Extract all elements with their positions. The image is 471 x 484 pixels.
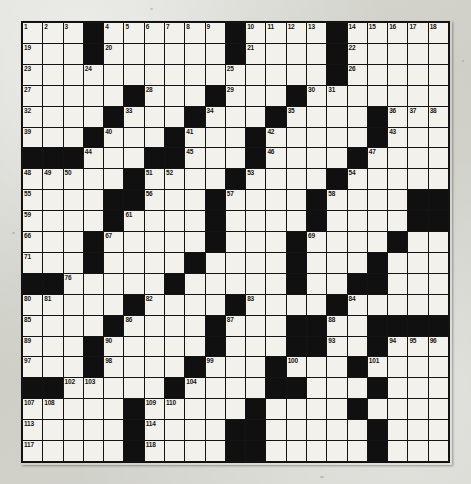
letter-square[interactable]: 104 <box>185 378 204 398</box>
letter-square[interactable] <box>165 65 184 85</box>
letter-square[interactable] <box>185 86 204 106</box>
letter-square[interactable]: 41 <box>185 128 204 148</box>
letter-square[interactable] <box>348 211 367 231</box>
letter-square[interactable] <box>226 378 245 398</box>
letter-square[interactable] <box>307 274 326 294</box>
letter-square[interactable] <box>368 86 387 106</box>
letter-square[interactable] <box>124 378 143 398</box>
letter-square[interactable] <box>185 65 204 85</box>
letter-square[interactable] <box>43 65 62 85</box>
letter-square[interactable] <box>266 253 285 273</box>
letter-square[interactable] <box>388 357 407 377</box>
letter-square[interactable] <box>429 65 448 85</box>
letter-square[interactable] <box>287 420 306 440</box>
letter-square[interactable]: 50 <box>64 169 83 189</box>
letter-square[interactable]: 29 <box>226 86 245 106</box>
letter-square[interactable] <box>165 357 184 377</box>
letter-square[interactable]: 59 <box>23 211 42 231</box>
letter-square[interactable] <box>165 190 184 210</box>
letter-square[interactable] <box>429 357 448 377</box>
letter-square[interactable] <box>84 107 103 127</box>
letter-square[interactable] <box>368 211 387 231</box>
letter-square[interactable] <box>145 232 164 252</box>
letter-square[interactable]: 48 <box>23 169 42 189</box>
letter-square[interactable]: 76 <box>64 274 83 294</box>
letter-square[interactable]: 81 <box>43 295 62 315</box>
letter-square[interactable] <box>246 107 265 127</box>
letter-square[interactable]: 18 <box>429 23 448 43</box>
letter-square[interactable] <box>266 65 285 85</box>
letter-square[interactable] <box>206 128 225 148</box>
letter-square[interactable] <box>64 44 83 64</box>
letter-square[interactable] <box>368 65 387 85</box>
letter-square[interactable]: 99 <box>206 357 225 377</box>
letter-square[interactable] <box>185 44 204 64</box>
letter-square[interactable] <box>145 253 164 273</box>
letter-square[interactable] <box>429 128 448 148</box>
letter-square[interactable] <box>307 295 326 315</box>
letter-square[interactable] <box>368 169 387 189</box>
letter-square[interactable]: 25 <box>226 65 245 85</box>
letter-square[interactable] <box>165 232 184 252</box>
letter-square[interactable] <box>104 420 123 440</box>
letter-square[interactable] <box>124 337 143 357</box>
letter-square[interactable] <box>145 107 164 127</box>
letter-square[interactable]: 43 <box>388 128 407 148</box>
letter-square[interactable]: 89 <box>23 337 42 357</box>
letter-square[interactable] <box>124 357 143 377</box>
letter-square[interactable] <box>388 378 407 398</box>
letter-square[interactable] <box>84 190 103 210</box>
letter-square[interactable] <box>266 169 285 189</box>
letter-square[interactable]: 98 <box>104 357 123 377</box>
letter-square[interactable] <box>226 211 245 231</box>
letter-square[interactable] <box>287 211 306 231</box>
letter-square[interactable]: 22 <box>348 44 367 64</box>
letter-square[interactable]: 102 <box>64 378 83 398</box>
letter-square[interactable]: 51 <box>145 169 164 189</box>
letter-square[interactable] <box>206 420 225 440</box>
letter-square[interactable] <box>327 107 346 127</box>
letter-square[interactable] <box>246 337 265 357</box>
letter-square[interactable]: 108 <box>43 399 62 419</box>
letter-square[interactable] <box>64 190 83 210</box>
letter-square[interactable] <box>185 420 204 440</box>
letter-square[interactable] <box>327 399 346 419</box>
letter-square[interactable] <box>388 420 407 440</box>
letter-square[interactable]: 7 <box>165 23 184 43</box>
letter-square[interactable]: 5 <box>124 23 143 43</box>
letter-square[interactable] <box>43 190 62 210</box>
letter-square[interactable] <box>348 128 367 148</box>
letter-square[interactable] <box>327 274 346 294</box>
letter-square[interactable] <box>206 399 225 419</box>
letter-square[interactable]: 114 <box>145 420 164 440</box>
letter-square[interactable] <box>43 420 62 440</box>
letter-square[interactable] <box>408 65 427 85</box>
letter-square[interactable] <box>266 399 285 419</box>
letter-square[interactable]: 57 <box>226 190 245 210</box>
letter-square[interactable]: 110 <box>165 399 184 419</box>
letter-square[interactable] <box>206 253 225 273</box>
letter-square[interactable] <box>408 253 427 273</box>
letter-square[interactable] <box>246 274 265 294</box>
letter-square[interactable] <box>348 337 367 357</box>
letter-square[interactable] <box>307 169 326 189</box>
letter-square[interactable]: 87 <box>226 316 245 336</box>
letter-square[interactable] <box>145 274 164 294</box>
letter-square[interactable] <box>327 211 346 231</box>
letter-square[interactable] <box>348 253 367 273</box>
letter-square[interactable] <box>307 148 326 168</box>
letter-square[interactable]: 71 <box>23 253 42 273</box>
letter-square[interactable] <box>287 148 306 168</box>
letter-square[interactable] <box>206 441 225 461</box>
letter-square[interactable] <box>429 169 448 189</box>
letter-square[interactable]: 2 <box>43 23 62 43</box>
letter-square[interactable] <box>206 169 225 189</box>
letter-square[interactable]: 30 <box>307 86 326 106</box>
letter-square[interactable] <box>226 128 245 148</box>
letter-square[interactable] <box>348 107 367 127</box>
letter-square[interactable]: 27 <box>23 86 42 106</box>
letter-square[interactable] <box>327 378 346 398</box>
letter-square[interactable] <box>145 65 164 85</box>
letter-square[interactable]: 21 <box>246 44 265 64</box>
letter-square[interactable] <box>124 128 143 148</box>
